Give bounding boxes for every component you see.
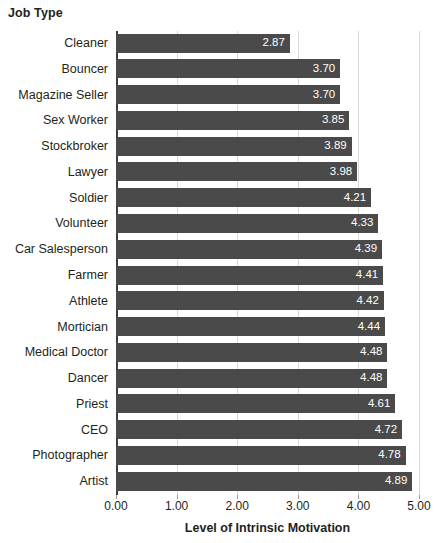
bar-value-label: 4.48 (360, 347, 382, 359)
bar-value-label: 4.41 (356, 269, 378, 281)
category-label: CEO (0, 418, 112, 442)
bar[interactable]: 2.87 (116, 34, 290, 53)
category-label: Photographer (0, 443, 112, 467)
x-tick-label: 2.00 (226, 499, 249, 513)
bar-value-label: 4.39 (355, 243, 377, 255)
bar-value-label: 2.87 (263, 37, 285, 49)
bar-value-label: 4.78 (378, 450, 400, 462)
bar[interactable]: 4.42 (116, 291, 384, 310)
bar-row: 3.70 (116, 83, 419, 107)
bar-row: 4.48 (116, 340, 419, 364)
bar-series: 2.873.703.703.853.893.984.214.334.394.41… (116, 31, 419, 495)
bar-value-label: 4.48 (360, 372, 382, 384)
bar-row: 4.89 (116, 469, 419, 493)
bar[interactable]: 3.89 (116, 137, 352, 156)
category-label: Priest (0, 392, 112, 416)
bar-value-label: 4.21 (344, 192, 366, 204)
bar-row: 2.87 (116, 31, 419, 55)
bar[interactable]: 4.21 (116, 188, 371, 207)
bar-row: 4.48 (116, 366, 419, 390)
x-axis-ticks: 0.001.002.003.004.005.00 (0, 495, 438, 515)
bar-row: 4.21 (116, 186, 419, 210)
category-label: Medical Doctor (0, 340, 112, 364)
bar-value-label: 4.89 (385, 475, 407, 487)
x-tick-label: 4.00 (347, 499, 370, 513)
bar-row: 3.89 (116, 134, 419, 158)
bar-value-label: 4.33 (351, 218, 373, 230)
x-axis-title: Level of Intrinsic Motivation (116, 521, 419, 535)
category-label: Artist (0, 469, 112, 493)
x-tick-label: 5.00 (407, 499, 430, 513)
bar-value-label: 4.61 (368, 398, 390, 410)
x-tick-label: 1.00 (165, 499, 188, 513)
bar-value-label: 3.89 (324, 140, 346, 152)
bar[interactable]: 3.70 (116, 85, 340, 104)
category-label: Bouncer (0, 57, 112, 81)
bar-value-label: 3.85 (322, 115, 344, 127)
bar[interactable]: 4.48 (116, 369, 387, 388)
category-label: Mortician (0, 315, 112, 339)
bar-value-label: 3.70 (313, 63, 335, 75)
bar[interactable]: 4.78 (116, 446, 406, 465)
gridline (419, 31, 420, 495)
bar[interactable]: 3.70 (116, 59, 340, 78)
category-label: Lawyer (0, 160, 112, 184)
category-label: Soldier (0, 186, 112, 210)
bar-row: 4.72 (116, 418, 419, 442)
x-tick-label: 3.00 (286, 499, 309, 513)
category-label: Stockbroker (0, 134, 112, 158)
bar[interactable]: 4.48 (116, 343, 387, 362)
bar-row: 4.78 (116, 443, 419, 467)
category-axis-labels: CleanerBouncerMagazine SellerSex WorkerS… (0, 31, 112, 495)
category-label: Sex Worker (0, 108, 112, 132)
category-label: Magazine Seller (0, 83, 112, 107)
bar[interactable]: 4.61 (116, 394, 395, 413)
category-label: Car Salesperson (0, 237, 112, 261)
bar-row: 4.41 (116, 263, 419, 287)
bar[interactable]: 4.72 (116, 420, 402, 439)
bar-value-label: 4.72 (375, 424, 397, 436)
category-label: Cleaner (0, 31, 112, 55)
plot-area: 2.873.703.703.853.893.984.214.334.394.41… (116, 31, 419, 495)
category-label: Farmer (0, 263, 112, 287)
bar-value-label: 3.70 (313, 89, 335, 101)
bar[interactable]: 4.89 (116, 472, 412, 491)
x-tick-label: 0.00 (104, 499, 127, 513)
category-label: Volunteer (0, 211, 112, 235)
bar-row: 4.61 (116, 392, 419, 416)
bar[interactable]: 4.41 (116, 266, 383, 285)
bar[interactable]: 3.85 (116, 111, 349, 130)
bar-row: 4.33 (116, 211, 419, 235)
bar-row: 4.44 (116, 315, 419, 339)
bar-row: 3.70 (116, 57, 419, 81)
category-label: Athlete (0, 289, 112, 313)
bar[interactable]: 4.44 (116, 317, 385, 336)
bar[interactable]: 4.33 (116, 214, 378, 233)
bar[interactable]: 4.39 (116, 240, 382, 259)
bar-row: 3.85 (116, 108, 419, 132)
bar-row: 3.98 (116, 160, 419, 184)
bar-chart: Job Type CleanerBouncerMagazine SellerSe… (0, 0, 438, 543)
bar[interactable]: 3.98 (116, 162, 357, 181)
bar-value-label: 4.42 (356, 295, 378, 307)
y-axis-title: Job Type (8, 6, 63, 20)
bar-value-label: 3.98 (330, 166, 352, 178)
bar-value-label: 4.44 (358, 321, 380, 333)
bar-row: 4.42 (116, 289, 419, 313)
bar-row: 4.39 (116, 237, 419, 261)
category-label: Dancer (0, 366, 112, 390)
